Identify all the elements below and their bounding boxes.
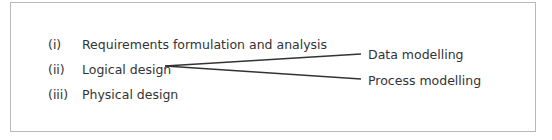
branch-data-modelling: Data modelling (368, 47, 464, 63)
branch-connector-lines (0, 0, 552, 140)
branch-process-modelling: Process modelling (368, 73, 481, 89)
